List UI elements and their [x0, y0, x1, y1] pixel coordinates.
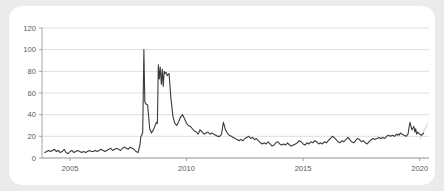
- x-tick-labels: 2005201020152020: [62, 164, 429, 173]
- y-tick-label: 60: [28, 89, 36, 98]
- x-axis: [42, 158, 429, 161]
- y-tick-label: 100: [23, 45, 36, 54]
- trend-segment: [420, 123, 428, 139]
- series-line: [45, 50, 424, 154]
- chart-svg: 020406080100120 2005201020152020: [9, 6, 435, 185]
- x-tick-label: 2020: [411, 164, 428, 173]
- chart-card: 020406080100120 2005201020152020: [9, 6, 435, 185]
- y-axis: [39, 28, 42, 158]
- data-series: [45, 50, 424, 154]
- y-tick-label: 40: [28, 110, 36, 119]
- y-tick-label: 0: [32, 154, 36, 163]
- y-tick-label: 120: [23, 24, 36, 33]
- x-tick-label: 2005: [62, 164, 79, 173]
- chart-annotations: [420, 123, 428, 139]
- x-tick-label: 2015: [295, 164, 312, 173]
- y-tick-labels: 020406080100120: [23, 24, 36, 163]
- line-chart: 020406080100120 2005201020152020: [9, 6, 435, 185]
- y-tick-label: 80: [28, 67, 36, 76]
- y-tick-label: 20: [28, 132, 36, 141]
- x-tick-label: 2010: [178, 164, 195, 173]
